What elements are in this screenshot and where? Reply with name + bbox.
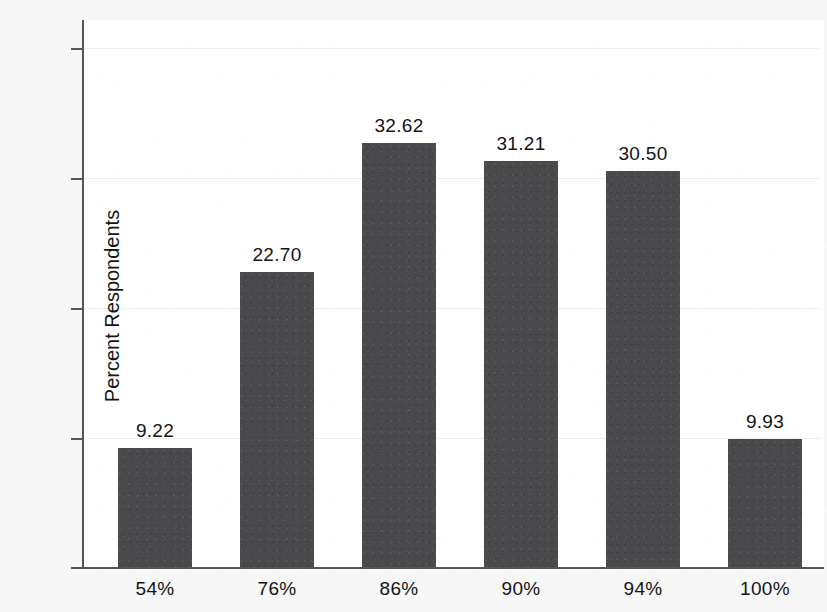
bar-group-1: 22.70	[240, 20, 314, 568]
x-tick-label-2: 86%	[380, 578, 419, 600]
y-axis-line	[82, 20, 84, 569]
bar-rect-3[interactable]	[484, 161, 558, 568]
bars-layer: 9.22 22.70 32.62 31.21 30.50 9.93	[82, 20, 824, 568]
bar-value-label-0: 9.22	[136, 420, 174, 442]
bar-group-3: 31.21	[484, 20, 558, 568]
x-tick-label-4: 94%	[624, 578, 663, 600]
bar-group-4: 30.50	[606, 20, 680, 568]
bar-value-label-5: 9.93	[746, 411, 784, 433]
y-tick-0	[71, 567, 82, 569]
bar-rect-4[interactable]	[606, 171, 680, 568]
x-tick-label-3: 90%	[502, 578, 541, 600]
x-axis-line	[82, 567, 824, 569]
bar-rect-2[interactable]	[362, 143, 436, 568]
bar-rect-0[interactable]	[118, 448, 192, 568]
y-axis-title: Percent Respondents	[101, 210, 124, 402]
y-tick-30	[71, 178, 82, 180]
y-tick-20	[71, 308, 82, 310]
bar-rect-1[interactable]	[240, 272, 314, 568]
x-tick-label-5: 100%	[740, 578, 790, 600]
y-tick-10	[71, 438, 82, 440]
bar-value-label-2: 32.62	[374, 115, 423, 137]
bar-group-0: 9.22	[118, 20, 192, 568]
bar-group-5: 9.93	[728, 20, 802, 568]
y-tick-40	[71, 48, 82, 50]
bar-rect-5[interactable]	[728, 439, 802, 568]
x-tick-label-0: 54%	[136, 578, 175, 600]
bar-group-2: 32.62	[362, 20, 436, 568]
bar-value-label-3: 31.21	[496, 133, 545, 155]
bar-value-label-4: 30.50	[618, 143, 667, 165]
x-tick-label-1: 76%	[258, 578, 297, 600]
bar-chart-figure: 0 10 20 30 40 Percent Respondents 9.22 2…	[0, 0, 827, 612]
bar-value-label-1: 22.70	[252, 244, 301, 266]
